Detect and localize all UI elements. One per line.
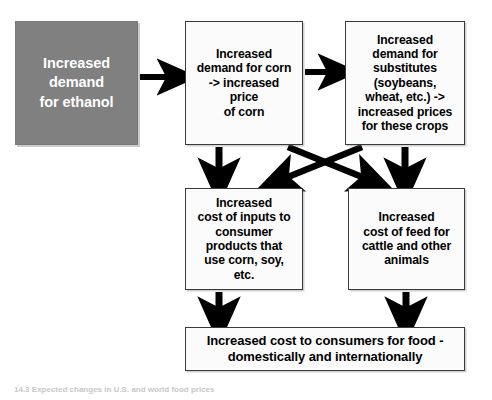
node-consumers[interactable]: Increased cost to consumers for food - d… <box>185 327 465 371</box>
arrow-corn-to-feed <box>288 147 372 181</box>
figure-caption: 14.3 Expected changes in U.S. and world … <box>14 385 215 394</box>
node-ethanol[interactable]: Increased demand for ethanol <box>15 21 138 145</box>
node-substitutes[interactable]: Increased demand for substitutes (soybea… <box>345 21 465 145</box>
node-corn[interactable]: Increased demand for corn -> increased p… <box>185 21 303 145</box>
arrow-substitutes-to-inputs <box>278 147 362 181</box>
diagram-canvas: Increased demand for ethanol Increased d… <box>0 0 492 400</box>
node-inputs[interactable]: Increased cost of inputs to consumer pro… <box>185 188 303 290</box>
node-feed[interactable]: Increased cost of feed for cattle and ot… <box>348 188 465 290</box>
